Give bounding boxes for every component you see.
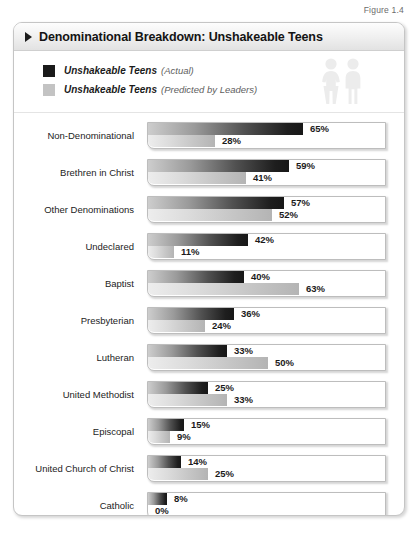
bar-track: 57%52% <box>147 196 386 223</box>
bar-actual <box>148 308 234 320</box>
bar-predicted <box>148 431 170 443</box>
bar-track: 15%9% <box>147 418 386 445</box>
bar-track: 8%0% <box>147 492 386 516</box>
bar-slot-predicted: 0% <box>148 505 385 516</box>
bar-value-label: 59% <box>296 160 315 172</box>
legend-label-qualifier: (Predicted by Leaders) <box>161 84 257 95</box>
chart-row: United Methodist25%33% <box>14 379 404 416</box>
page-title: Denominational Breakdown: Unshakeable Te… <box>39 30 323 44</box>
bar-predicted <box>148 209 272 221</box>
row-label: Catholic <box>14 500 134 511</box>
bar-slot-predicted: 25% <box>148 468 385 480</box>
row-label: Brethren in Christ <box>14 167 134 178</box>
bar-value-label: 11% <box>181 246 200 258</box>
bar-slot-actual: 33% <box>148 345 385 357</box>
bar-slot-predicted: 28% <box>148 135 385 147</box>
bar-slot-predicted: 11% <box>148 246 385 258</box>
bar-slot-actual: 59% <box>148 160 385 172</box>
bar-value-label: 41% <box>253 172 272 184</box>
two-people-icon <box>316 56 368 106</box>
bar-value-label: 63% <box>306 283 325 295</box>
bar-value-label: 9% <box>177 431 191 443</box>
row-label: Lutheran <box>14 352 134 363</box>
bar-actual <box>148 197 284 209</box>
figure-caption: Figure 1.4 <box>364 5 404 15</box>
bar-value-label: 33% <box>234 345 253 357</box>
legend-label-name: Unshakeable Teens <box>64 84 157 95</box>
bar-actual <box>148 493 167 505</box>
bar-slot-actual: 36% <box>148 308 385 320</box>
bar-actual <box>148 345 227 357</box>
bar-slot-predicted: 41% <box>148 172 385 184</box>
bar-slot-actual: 15% <box>148 419 385 431</box>
bar-slot-actual: 42% <box>148 234 385 246</box>
bar-track: 40%63% <box>147 270 386 297</box>
legend-label-name: Unshakeable Teens <box>64 65 157 76</box>
row-label: United Methodist <box>14 389 134 400</box>
bar-slot-actual: 65% <box>148 123 385 135</box>
bar-slot-predicted: 33% <box>148 394 385 406</box>
bar-value-label: 25% <box>215 382 234 394</box>
bar-slot-predicted: 52% <box>148 209 385 221</box>
chart-header: Denominational Breakdown: Unshakeable Te… <box>14 23 404 51</box>
bar-slot-predicted: 9% <box>148 431 385 443</box>
bar-slot-predicted: 63% <box>148 283 385 295</box>
bar-value-label: 42% <box>255 234 274 246</box>
chart-row: Undeclared42%11% <box>14 231 404 268</box>
bar-value-label: 57% <box>291 197 310 209</box>
bar-predicted <box>148 172 246 184</box>
bar-track: 14%25% <box>147 455 386 482</box>
chart-row: Brethren in Christ59%41% <box>14 157 404 194</box>
bar-actual <box>148 382 208 394</box>
bar-predicted <box>148 468 208 480</box>
bar-track: 42%11% <box>147 233 386 260</box>
chart-row: Baptist40%63% <box>14 268 404 305</box>
chart-legend: Unshakeable Teens (Actual) Unshakeable T… <box>14 51 404 113</box>
bar-value-label: 33% <box>234 394 253 406</box>
legend-item-actual: Unshakeable Teens (Actual) <box>43 62 257 79</box>
row-label: Non-Denominational <box>14 130 134 141</box>
chart-row: Lutheran33%50% <box>14 342 404 379</box>
bar-value-label: 50% <box>275 357 294 369</box>
bar-value-label: 14% <box>188 456 207 468</box>
bar-predicted <box>148 246 174 258</box>
bar-slot-predicted: 50% <box>148 357 385 369</box>
row-label: Other Denominations <box>14 204 134 215</box>
bar-value-label: 36% <box>241 308 260 320</box>
triangle-right-icon <box>25 32 32 42</box>
bar-track: 65%28% <box>147 122 386 149</box>
bar-value-label: 25% <box>215 468 234 480</box>
bar-slot-actual: 14% <box>148 456 385 468</box>
bar-value-label: 28% <box>222 135 241 147</box>
bar-actual <box>148 271 244 283</box>
chart-card: Denominational Breakdown: Unshakeable Te… <box>13 22 405 516</box>
bar-predicted <box>148 320 205 332</box>
chart-row: Catholic8%0% <box>14 490 404 516</box>
row-label: Baptist <box>14 278 134 289</box>
bar-actual <box>148 160 289 172</box>
bar-slot-actual: 40% <box>148 271 385 283</box>
row-label: Undeclared <box>14 241 134 252</box>
bar-slot-predicted: 24% <box>148 320 385 332</box>
bar-track: 59%41% <box>147 159 386 186</box>
bar-actual <box>148 123 303 135</box>
chart-rows: Non-Denominational65%28%Brethren in Chri… <box>14 113 404 516</box>
legend-label-qualifier: (Actual) <box>161 65 194 76</box>
legend-item-predicted: Unshakeable Teens (Predicted by Leaders) <box>43 81 257 98</box>
bar-predicted <box>148 135 215 147</box>
bar-slot-actual: 25% <box>148 382 385 394</box>
legend-swatch-light-icon <box>43 84 55 96</box>
bar-track: 36%24% <box>147 307 386 334</box>
row-label: Presbyterian <box>14 315 134 326</box>
bar-actual <box>148 419 184 431</box>
bar-value-label: 15% <box>191 419 210 431</box>
legend-swatch-dark-icon <box>43 65 55 77</box>
bar-predicted <box>148 357 268 369</box>
bar-slot-actual: 57% <box>148 197 385 209</box>
chart-row: Other Denominations57%52% <box>14 194 404 231</box>
bar-actual <box>148 234 248 246</box>
bar-predicted <box>148 394 227 406</box>
bar-predicted <box>148 283 299 295</box>
row-label: Episcopal <box>14 426 134 437</box>
chart-row: United Church of Christ14%25% <box>14 453 404 490</box>
